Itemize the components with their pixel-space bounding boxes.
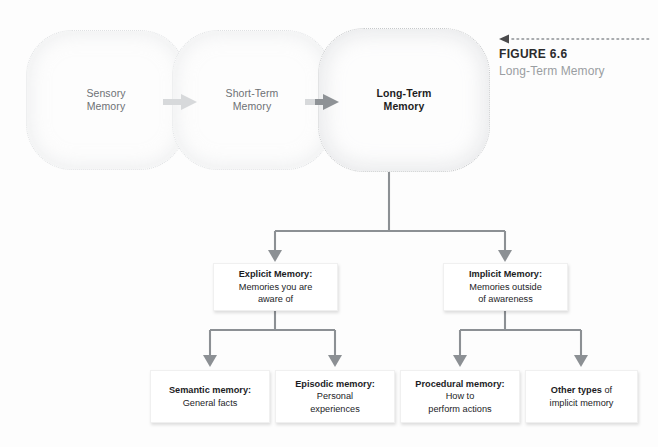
node-implicit-memory-heading: Implicit Memory: <box>469 269 542 279</box>
figure-caption-label: FIGURE 6.6 <box>499 47 654 61</box>
node-procedural-memory-line2: perform actions <box>428 404 491 414</box>
node-procedural-memory-text: Procedural memory: How to perform action… <box>411 378 508 415</box>
memory-store-sensory-label: Sensory Memory <box>27 87 185 113</box>
node-other-implicit-memory-line1: of <box>604 385 612 395</box>
left-triangle-dotted-rule-icon <box>499 34 651 44</box>
node-episodic-memory-heading: Episodic memory: <box>295 379 375 389</box>
node-episodic-memory: Episodic memory: Personal experiences <box>275 370 395 423</box>
node-explicit-memory-line1: Memories you are <box>239 282 313 292</box>
node-procedural-memory-line1: How to <box>446 391 475 401</box>
node-implicit-memory-text: Implicit Memory: Memories outside of awa… <box>465 268 546 305</box>
memory-store-long-term-line1: Long-Term <box>377 87 432 99</box>
node-other-implicit-memory: Other types of implicit memory <box>525 370 638 423</box>
node-other-implicit-memory-text: Other types of implicit memory <box>546 384 618 409</box>
memory-store-sensory-line2: Memory <box>87 100 126 112</box>
node-other-implicit-memory-line2: implicit memory <box>550 398 614 408</box>
node-semantic-memory-line1: General facts <box>183 398 238 408</box>
node-implicit-memory-line1: Memories outside <box>469 282 542 292</box>
node-procedural-memory-heading: Procedural memory: <box>415 379 504 389</box>
node-implicit-memory-line2: of awareness <box>478 294 533 304</box>
node-procedural-memory: Procedural memory: How to perform action… <box>400 370 520 423</box>
memory-store-long-term-label: Long-Term Memory <box>319 87 489 113</box>
memory-store-sensory: Sensory Memory <box>26 30 186 170</box>
node-semantic-memory-text: Semantic memory: General facts <box>165 384 255 409</box>
right-arrow-icon <box>163 94 199 110</box>
figure-canvas: Sensory Memory Short-Term Memory Long-Te… <box>0 0 658 447</box>
node-episodic-memory-line2: experiences <box>310 404 360 414</box>
node-other-implicit-memory-heading: Other types <box>551 385 602 395</box>
node-semantic-memory: Semantic memory: General facts <box>150 370 270 423</box>
node-episodic-memory-text: Episodic memory: Personal experiences <box>291 378 379 415</box>
node-explicit-memory-heading: Explicit Memory: <box>239 269 313 279</box>
figure-caption: FIGURE 6.6 Long-Term Memory <box>499 34 654 78</box>
memory-store-short-term-line2: Memory <box>233 100 272 112</box>
node-semantic-memory-heading: Semantic memory: <box>169 385 251 395</box>
node-explicit-memory: Explicit Memory: Memories you are aware … <box>213 263 338 311</box>
figure-caption-title: Long-Term Memory <box>499 64 654 78</box>
node-episodic-memory-line1: Personal <box>317 391 353 401</box>
node-explicit-memory-text: Explicit Memory: Memories you are aware … <box>235 268 317 305</box>
memory-store-short-term-line1: Short-Term <box>226 87 279 99</box>
node-implicit-memory: Implicit Memory: Memories outside of awa… <box>443 263 568 311</box>
memory-store-sensory-line1: Sensory <box>86 87 125 99</box>
memory-store-long-term: Long-Term Memory <box>318 28 490 172</box>
node-explicit-memory-line2: aware of <box>258 294 293 304</box>
memory-store-long-term-line2: Memory <box>384 100 425 112</box>
right-arrow-icon <box>305 94 341 110</box>
